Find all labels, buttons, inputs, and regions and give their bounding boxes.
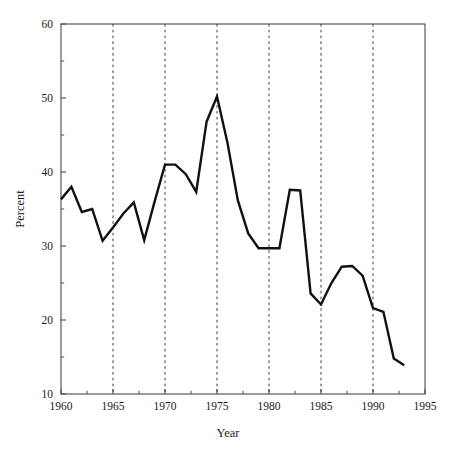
y-tick-label-10: 10 [42,388,54,400]
y-tick-label-40: 40 [42,166,54,178]
x-tick-label-1960: 1960 [50,400,73,412]
x-tick-label-1980: 1980 [258,400,281,412]
plot-frame [61,24,425,394]
axis-frame [61,24,425,394]
x-tick-label-1995: 1995 [414,400,437,412]
data-series-line [61,97,404,366]
y-tick-label-50: 50 [42,92,54,104]
x-axis-ticks [61,389,425,394]
x-axis-title: Year [216,426,240,440]
y-axis-tick-labels: 102030405060 [42,18,54,400]
chart-container: 19601965197019751980198519901995 1020304… [0,0,449,458]
y-tick-label-30: 30 [42,240,54,252]
x-tick-label-1990: 1990 [362,400,385,412]
line-chart-plot: 19601965197019751980198519901995 1020304… [0,0,449,458]
y-axis-ticks [61,24,66,394]
y-axis-title: Percent [13,190,27,228]
x-tick-label-1985: 1985 [310,400,333,412]
y-tick-label-20: 20 [42,314,54,326]
x-tick-label-1965: 1965 [102,400,125,412]
x-axis-tick-labels: 19601965197019751980198519901995 [50,400,437,412]
x-tick-label-1970: 1970 [154,400,177,412]
x-tick-label-1975: 1975 [206,400,229,412]
y-tick-label-60: 60 [42,18,54,30]
